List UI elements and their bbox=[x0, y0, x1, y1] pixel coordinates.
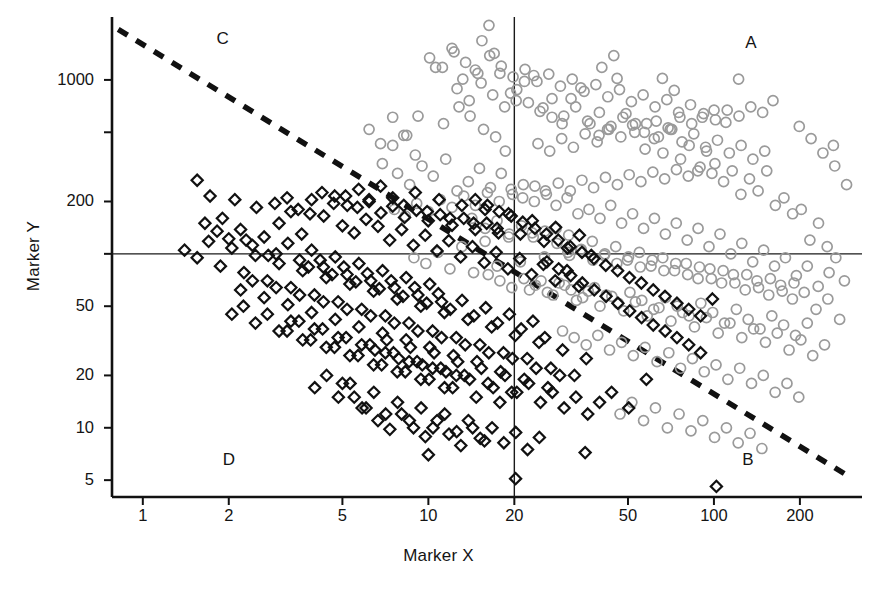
data-point-diamond bbox=[356, 402, 367, 413]
data-point-circle bbox=[734, 111, 744, 121]
data-point-circle bbox=[822, 242, 832, 252]
data-point-circle bbox=[520, 64, 530, 74]
data-point-circle bbox=[417, 161, 427, 171]
y-tick-label: 200 bbox=[24, 191, 94, 210]
plot-canvas bbox=[0, 0, 877, 594]
data-point-circle bbox=[616, 132, 626, 142]
scatter-plot-figure: Marker X Marker Y 125102050100200 100020… bbox=[0, 0, 877, 594]
data-point-circle bbox=[839, 276, 849, 286]
data-point-diamond bbox=[251, 202, 262, 213]
data-point-diamond bbox=[456, 295, 467, 306]
data-point-circle bbox=[477, 36, 487, 46]
data-point-circle bbox=[508, 72, 518, 82]
data-point-circle bbox=[723, 374, 733, 384]
y-tick-label: 10 bbox=[24, 418, 94, 437]
data-point-diamond bbox=[285, 282, 296, 293]
data-point-diamond bbox=[582, 408, 593, 419]
data-point-circle bbox=[671, 259, 681, 269]
data-point-diamond bbox=[574, 230, 585, 241]
data-point-circle bbox=[693, 223, 703, 233]
data-point-diamond bbox=[345, 378, 356, 389]
data-point-diamond bbox=[554, 370, 565, 381]
data-point-circle bbox=[842, 180, 852, 190]
quadrant-label-d: D bbox=[223, 450, 235, 470]
data-point-circle bbox=[612, 73, 622, 83]
data-point-circle bbox=[794, 121, 804, 131]
data-point-diamond bbox=[570, 392, 581, 403]
data-point-diamond bbox=[211, 226, 222, 237]
data-point-diamond bbox=[281, 192, 292, 203]
data-point-diamond bbox=[527, 316, 538, 327]
data-point-diamond bbox=[309, 289, 320, 300]
data-point-circle bbox=[615, 409, 625, 419]
data-point-circle bbox=[593, 330, 603, 340]
data-point-circle bbox=[664, 348, 674, 358]
data-point-diamond bbox=[349, 227, 360, 238]
data-point-circle bbox=[496, 168, 506, 178]
data-point-diamond bbox=[235, 224, 246, 235]
data-point-diamond bbox=[340, 332, 351, 343]
data-point-diamond bbox=[408, 240, 419, 251]
data-point-circle bbox=[748, 154, 758, 164]
data-point-circle bbox=[799, 287, 809, 297]
data-point-diamond bbox=[352, 202, 363, 213]
data-point-circle bbox=[814, 218, 824, 228]
data-point-circle bbox=[428, 171, 438, 181]
data-point-diamond bbox=[304, 208, 315, 219]
data-point-circle bbox=[779, 193, 789, 203]
data-point-circle bbox=[736, 189, 746, 199]
data-point-circle bbox=[547, 94, 557, 104]
data-point-diamond bbox=[353, 321, 364, 332]
data-point-diamond bbox=[203, 236, 214, 247]
data-point-circle bbox=[615, 85, 625, 95]
data-point-circle bbox=[564, 230, 574, 240]
data-point-circle bbox=[463, 177, 473, 187]
data-point-circle bbox=[805, 235, 815, 245]
data-point-circle bbox=[717, 278, 727, 288]
data-point-diamond bbox=[471, 392, 482, 403]
data-point-circle bbox=[681, 259, 691, 269]
data-point-circle bbox=[818, 148, 828, 158]
data-point-diamond bbox=[648, 284, 659, 295]
y-tick-label: 20 bbox=[24, 365, 94, 384]
data-point-circle bbox=[545, 146, 555, 156]
data-point-circle bbox=[735, 363, 745, 373]
data-point-circle bbox=[465, 111, 475, 121]
data-point-circle bbox=[606, 200, 616, 210]
data-point-circle bbox=[600, 172, 610, 182]
data-point-diamond bbox=[711, 481, 722, 492]
data-point-circle bbox=[410, 150, 420, 160]
data-point-diamond bbox=[333, 392, 344, 403]
data-point-circle bbox=[658, 148, 668, 158]
data-point-diamond bbox=[316, 187, 327, 198]
data-point-circle bbox=[580, 129, 590, 139]
data-point-circle bbox=[699, 367, 709, 377]
data-point-circle bbox=[719, 177, 729, 187]
data-point-circle bbox=[421, 259, 431, 269]
data-point-circle bbox=[782, 378, 792, 388]
y-tick-label: 1000 bbox=[24, 70, 94, 89]
data-point-diamond bbox=[405, 342, 416, 353]
data-point-circle bbox=[704, 242, 714, 252]
data-point-circle bbox=[459, 191, 469, 201]
data-point-diamond bbox=[401, 334, 412, 345]
data-point-circle bbox=[511, 96, 521, 106]
data-point-circle bbox=[794, 392, 804, 402]
data-point-circle bbox=[657, 73, 667, 83]
data-point-diamond bbox=[204, 190, 215, 201]
data-point-diamond bbox=[384, 424, 395, 435]
data-point-circle bbox=[744, 174, 754, 184]
data-point-circle bbox=[452, 186, 462, 196]
data-point-diamond bbox=[463, 415, 474, 426]
data-point-circle bbox=[626, 97, 636, 107]
data-point-circle bbox=[767, 311, 777, 321]
data-point-diamond bbox=[384, 234, 395, 245]
data-point-diamond bbox=[372, 221, 383, 232]
data-point-circle bbox=[495, 276, 505, 286]
data-point-diamond bbox=[215, 261, 226, 272]
data-point-circle bbox=[597, 62, 607, 72]
data-point-circle bbox=[743, 314, 753, 324]
data-point-diamond bbox=[396, 224, 407, 235]
data-point-circle bbox=[802, 261, 812, 271]
data-point-diamond bbox=[273, 218, 284, 229]
